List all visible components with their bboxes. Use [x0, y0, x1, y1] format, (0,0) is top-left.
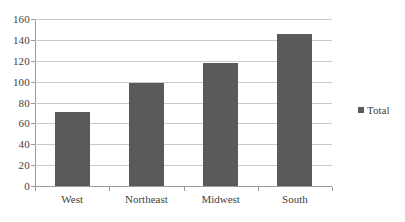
y-axis-tick-label: 120	[13, 55, 30, 66]
x-axis-tick-separator	[184, 187, 185, 191]
y-axis-tick-mark	[31, 40, 35, 41]
x-axis-category-labels: WestNortheastMidwestSouth	[35, 193, 332, 211]
plot-wrapper: 020406080100120140160 WestNortheastMidwe…	[0, 0, 405, 222]
bar	[277, 34, 312, 186]
legend-swatch-icon	[358, 107, 364, 113]
x-axis-category-label: South	[282, 193, 308, 206]
y-axis-tick-label: 20	[19, 160, 30, 171]
y-axis-tick-label: 140	[13, 34, 30, 45]
y-axis-tick-labels: 020406080100120140160	[0, 19, 30, 186]
chart-legend: Total	[358, 104, 389, 116]
x-axis-category-label: Northeast	[125, 193, 168, 206]
legend-label-total: Total	[367, 104, 389, 116]
x-axis-tick-separator	[258, 187, 259, 191]
x-axis-tick-separator	[109, 187, 110, 191]
bar	[203, 63, 238, 186]
y-axis-tick-mark	[31, 103, 35, 104]
y-axis-tick-label: 60	[19, 118, 30, 129]
y-axis-tick-mark	[31, 19, 35, 20]
y-axis-tick-mark	[31, 144, 35, 145]
x-axis-tick-separator	[35, 187, 36, 191]
x-axis-category-label: West	[61, 193, 83, 206]
bar	[55, 112, 90, 186]
y-axis-tick-mark	[31, 165, 35, 166]
y-axis-tick-label: 40	[19, 139, 30, 150]
bar	[129, 83, 164, 186]
y-axis-tick-mark	[31, 123, 35, 124]
y-axis-tick-mark	[31, 61, 35, 62]
y-axis-tick-label: 160	[13, 14, 30, 25]
bars-layer	[35, 19, 332, 186]
x-axis-tick-separator	[332, 187, 333, 191]
y-axis-tick-label: 0	[24, 181, 30, 192]
y-axis-tick-label: 80	[19, 97, 30, 108]
bar-chart-figure: 020406080100120140160 WestNortheastMidwe…	[0, 0, 405, 222]
y-axis-tick-mark	[31, 82, 35, 83]
x-axis-category-label: Midwest	[201, 193, 240, 206]
y-axis-tick-label: 100	[13, 76, 30, 87]
